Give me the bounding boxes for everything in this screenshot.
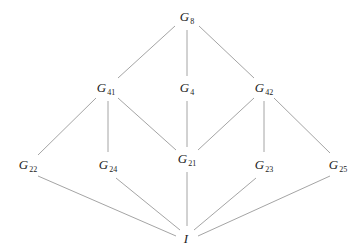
node-subscript: 24 xyxy=(109,165,117,174)
node-G24: G24 xyxy=(99,158,117,174)
node-base-label: I xyxy=(184,231,188,246)
node-base-label: G xyxy=(180,9,189,24)
node-G23: G23 xyxy=(255,158,273,174)
node-subscript: 42 xyxy=(265,88,273,97)
node-subscript: 22 xyxy=(29,165,37,174)
edge-G41-G22 xyxy=(38,98,96,155)
node-G25: G25 xyxy=(329,158,347,174)
node-subscript: 4 xyxy=(190,88,194,97)
node-G21: G21 xyxy=(178,152,196,168)
edge-G42-G25 xyxy=(274,98,330,153)
node-subscript: 8 xyxy=(190,17,194,26)
edge-G41-G21 xyxy=(118,98,176,150)
node-G22: G22 xyxy=(19,158,37,174)
node-I: I xyxy=(184,232,188,245)
node-subscript: 41 xyxy=(107,88,115,97)
node-base-label: G xyxy=(97,80,106,95)
edge-G42-G21 xyxy=(198,98,254,150)
node-subscript: 25 xyxy=(339,165,347,174)
node-base-label: G xyxy=(99,157,108,172)
node-base-label: G xyxy=(178,151,187,166)
node-subscript: 21 xyxy=(188,159,196,168)
lattice-edges xyxy=(0,0,356,248)
edge-G24-I xyxy=(116,178,180,230)
edge-G8-G42 xyxy=(199,26,254,78)
node-G41: G41 xyxy=(97,81,115,97)
edge-G25-I xyxy=(198,176,330,236)
node-base-label: G xyxy=(329,157,338,172)
node-base-label: G xyxy=(255,80,264,95)
node-G42: G42 xyxy=(255,81,273,97)
node-G4: G4 xyxy=(180,81,194,97)
subgroup-lattice-diagram: G8G41G4G42G22G24G21G23G25I xyxy=(0,0,356,248)
node-G8: G8 xyxy=(180,10,194,26)
node-base-label: G xyxy=(180,80,189,95)
node-base-label: G xyxy=(255,157,264,172)
node-base-label: G xyxy=(19,157,28,172)
edge-G22-I xyxy=(38,176,176,236)
node-subscript: 23 xyxy=(265,165,273,174)
edge-G23-I xyxy=(194,178,256,230)
edge-G8-G41 xyxy=(118,26,175,78)
